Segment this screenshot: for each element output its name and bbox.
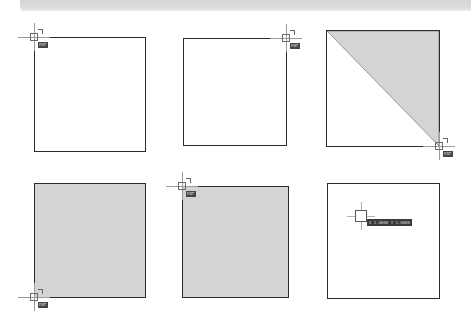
- pickbox-icon: [282, 34, 290, 42]
- snap-marker-icon: [443, 138, 448, 143]
- cursor-tooltip: ENT: [38, 302, 48, 308]
- pickbox-icon: [178, 182, 186, 190]
- cursor-tooltip: ENT: [290, 43, 300, 49]
- pickbox-icon: [435, 142, 443, 150]
- drawing-panel-2[interactable]: [183, 38, 287, 146]
- cursor-tooltip: ENT: [186, 191, 196, 197]
- cursor-tooltip: ENT: [38, 42, 48, 48]
- snap-marker-icon: [38, 289, 43, 294]
- top-toolbar-band: [20, 0, 471, 11]
- triangle-hatch-fill: [327, 31, 439, 146]
- drawing-panel-4[interactable]: [34, 183, 146, 298]
- pickbox-icon: [30, 33, 38, 41]
- cursor-tooltip: ENT: [443, 151, 453, 157]
- coordinate-tooltip: X 1.0000 Y 1.0000: [367, 219, 412, 226]
- drawing-panel-5[interactable]: [182, 186, 289, 298]
- snap-marker-icon: [38, 29, 43, 34]
- pickbox-icon: [30, 293, 38, 301]
- drawing-panel-3[interactable]: [326, 30, 440, 147]
- drawing-panel-1[interactable]: [34, 37, 146, 152]
- snap-marker-icon: [186, 178, 191, 183]
- drawing-panel-6[interactable]: [327, 183, 440, 299]
- pickbox-icon: [355, 210, 367, 222]
- snap-marker-icon: [290, 30, 295, 35]
